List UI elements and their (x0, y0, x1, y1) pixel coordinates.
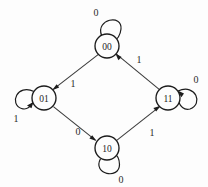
transition-10-to-11-label: 1 (150, 127, 155, 138)
fsm-diagram: 1 0 1 1 0 1 (0, 0, 208, 187)
state-node-00[interactable]: 00 (95, 34, 119, 58)
transition-10-to-11[interactable]: 1 (116, 106, 160, 141)
state-node-01-label: 01 (39, 94, 49, 104)
state-diagram-canvas: 1 0 1 1 0 1 (0, 0, 208, 187)
state-node-11-label: 11 (163, 94, 172, 104)
self-loop-11[interactable]: 0 (177, 74, 198, 110)
transition-00-to-01-label: 1 (71, 78, 76, 89)
state-node-00-label: 00 (102, 42, 112, 52)
transition-11-to-00-label: 1 (137, 54, 142, 65)
self-loop-01[interactable]: 1 (14, 90, 35, 124)
self-loop-01-label: 1 (14, 113, 19, 124)
state-node-10[interactable]: 10 (95, 136, 119, 160)
transition-00-to-01-line (53, 54, 98, 89)
state-node-11[interactable]: 11 (156, 86, 180, 110)
self-loop-11-label: 0 (194, 74, 199, 85)
state-node-10-label: 10 (102, 144, 112, 154)
transition-01-to-10-line (53, 107, 95, 141)
transition-00-to-01[interactable]: 1 (52, 54, 98, 90)
transition-11-to-00[interactable]: 1 (115, 53, 159, 89)
state-node-01[interactable]: 01 (32, 86, 56, 110)
self-loop-10-label: 0 (119, 174, 124, 185)
transition-01-to-10[interactable]: 0 (53, 107, 96, 141)
transition-01-to-10-label: 0 (76, 126, 81, 137)
self-loop-00-label: 0 (94, 7, 99, 18)
